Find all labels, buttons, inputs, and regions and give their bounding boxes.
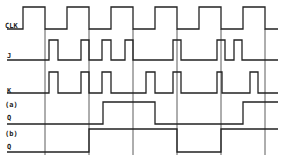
clk-label: CLK bbox=[5, 22, 18, 30]
case-a-label: (a) bbox=[5, 101, 18, 109]
timing-diagram: CLK J K (a) Q (b) Q bbox=[0, 0, 285, 155]
q-a-label: Q bbox=[7, 114, 11, 122]
waveforms bbox=[7, 7, 278, 152]
case-b-label: (b) bbox=[5, 130, 18, 138]
signal-labels: CLK J K (a) Q (b) Q bbox=[5, 22, 18, 151]
k-waveform bbox=[7, 72, 278, 93]
clk-waveform bbox=[7, 7, 278, 29]
k-label: K bbox=[7, 87, 12, 95]
j-label: J bbox=[7, 52, 11, 60]
q_b-waveform bbox=[7, 129, 278, 152]
j-waveform bbox=[7, 40, 278, 60]
q-b-label: Q bbox=[7, 143, 11, 151]
q_a-waveform bbox=[7, 102, 278, 124]
